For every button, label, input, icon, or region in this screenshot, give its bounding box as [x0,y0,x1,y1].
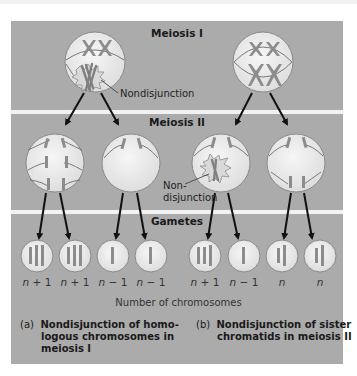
nondisjunction-label-meiosis-2-line2: disjunction [163,192,217,203]
caption-b: (b) Nondisjunction of sister chromatids … [196,319,352,343]
chromosome-number-label: Number of chromosomes [0,297,357,308]
meiosis1-cell-b [233,32,293,92]
stage-title-gametes: Gametes [117,215,237,227]
gamete-count-8: n [300,276,340,288]
caption-a-tag: (a) [20,319,37,331]
stage-title-meiosis-2: Meiosis II [117,116,237,128]
gamete-5 [189,240,221,272]
caption-b-line2: chromatids in meiosis II [196,331,352,343]
nondisjunction-label-meiosis-1: Nondisjunction [120,88,194,99]
caption-a-line3: meiosis I [20,343,179,355]
meiosis2-cell-1 [26,134,84,192]
meiosis2-cell-3 [185,134,250,192]
gamete-count-4: n − 1 [131,276,171,288]
caption-b-tag: (b) [196,319,213,331]
gamete-count-1: n + 1 [17,276,57,288]
gamete-count-3: n − 1 [93,276,133,288]
meiosis1-cell-a [65,32,125,93]
caption-a-line1: Nondisjunction of homo- [40,319,178,330]
gamete-count-2: n + 1 [55,276,95,288]
meiosis2-cell-2 [102,134,160,192]
gamete-6 [228,240,260,272]
caption-b-line1: Nondisjunction of sister [216,319,351,330]
gamete-8 [304,240,336,272]
caption-a-line2: logous chromosomes in [20,331,179,343]
gamete-count-6: n − 1 [224,276,264,288]
gamete-cells [21,240,336,272]
gamete-count-5: n + 1 [185,276,225,288]
gamete-2 [59,240,91,272]
gamete-count-7: n [262,276,302,288]
gamete-7 [266,240,298,272]
caption-a: (a) Nondisjunction of homo- logous chrom… [20,319,179,355]
stage-title-meiosis-1: Meiosis I [117,27,237,39]
gamete-4 [135,240,167,272]
gamete-3 [97,240,129,272]
gamete-1 [21,240,53,272]
meiosis2-cell-4 [267,134,325,192]
nondisjunction-label-meiosis-2-line1: Non- [163,180,187,191]
